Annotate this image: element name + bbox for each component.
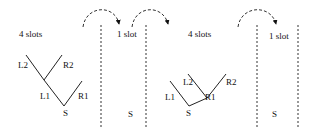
slot-transition-diagram: 4 slots L2 R2 L1 R1 S 1 slot S 4 slots L… <box>0 0 314 137</box>
edge-l2 <box>26 55 44 80</box>
node-label-s: S <box>128 109 133 119</box>
column-panel-1: 1 slot S <box>101 25 146 128</box>
tree-panel-2: 4 slots L2 R2 L1 R1 S <box>165 29 237 118</box>
node-label-r1: R1 <box>78 91 89 101</box>
slots-label: 4 slots <box>188 29 212 39</box>
slots-label: 1 slot <box>269 31 289 41</box>
node-label-s: S <box>63 108 68 118</box>
slots-label: 1 slot <box>117 29 137 39</box>
node-label-s: S <box>272 109 277 119</box>
node-label-l1: L1 <box>40 91 50 101</box>
slots-label: 4 slots <box>19 29 43 39</box>
transition-arrow-icon <box>83 10 119 27</box>
node-label-l1: L1 <box>165 92 175 102</box>
edge-r2 <box>44 55 62 80</box>
node-label-r1: R1 <box>205 92 216 102</box>
node-label-l2: L2 <box>183 77 193 87</box>
tree-panel-1: 4 slots L2 R2 L1 R1 S <box>18 29 89 118</box>
node-label-r2: R2 <box>226 77 237 87</box>
transition-arrow-icon <box>132 10 168 27</box>
node-label-l2: L2 <box>18 60 28 70</box>
node-label-s: S <box>186 108 191 118</box>
column-panel-2: 1 slot S <box>257 25 298 128</box>
node-label-r2: R2 <box>63 60 74 70</box>
transition-arrow-icon <box>238 10 276 27</box>
